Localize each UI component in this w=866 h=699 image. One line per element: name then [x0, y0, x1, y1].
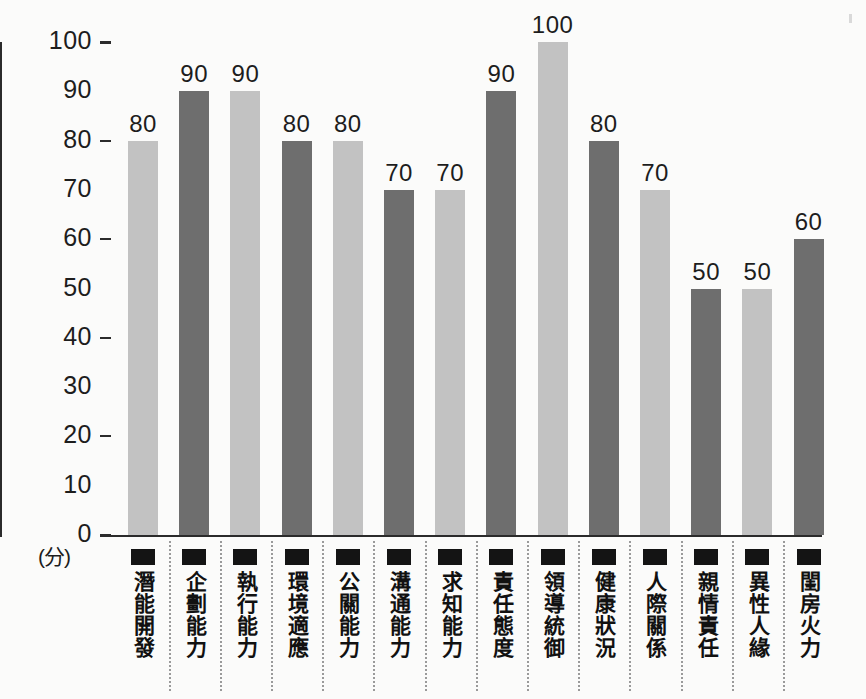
- y-axis-tick-label: 40: [32, 322, 92, 351]
- category-label: 閨房火力: [797, 571, 820, 659]
- category-axis: 潛能開發企劃能力執行能力環境適應公關能力溝通能力求知能力責任態度領導統御健康狀況…: [100, 537, 822, 699]
- y-axis-unit-label: (分): [38, 540, 70, 570]
- bar: [538, 42, 568, 535]
- category-separator: [783, 541, 785, 691]
- bar: [282, 141, 312, 535]
- scan-speck: [849, 14, 852, 23]
- bar-value-label: 60: [783, 208, 835, 236]
- y-axis-tick-label: 90: [32, 75, 92, 104]
- bar-value-label: 90: [168, 60, 220, 88]
- bar: [691, 289, 721, 536]
- category-separator: [271, 541, 273, 691]
- category-separator: [681, 541, 683, 691]
- bar: [230, 91, 260, 535]
- y-axis-tick-label: 60: [32, 223, 92, 252]
- category-column[interactable]: 閨房火力: [783, 537, 834, 699]
- category-separator: [732, 541, 734, 691]
- square-marker-icon: [694, 549, 718, 565]
- category-label: 健康狀況: [592, 571, 615, 659]
- square-marker-icon: [387, 549, 411, 565]
- square-marker-icon: [745, 549, 769, 565]
- category-label: 異性人緣: [746, 571, 769, 659]
- bar: [794, 239, 824, 535]
- bar-series: 80909080807070901008070505060: [100, 42, 822, 535]
- square-marker-icon: [797, 549, 821, 565]
- category-column[interactable]: 異性人緣: [732, 537, 783, 699]
- category-column[interactable]: 健康狀況: [578, 537, 629, 699]
- bar-value-label: 70: [629, 159, 681, 187]
- bar: [742, 289, 772, 536]
- square-marker-icon: [131, 549, 155, 565]
- y-axis-tick-label: 100: [32, 26, 92, 55]
- bar-value-label: 80: [117, 110, 169, 138]
- bar: [640, 190, 670, 535]
- y-axis-line: [0, 42, 2, 537]
- category-column[interactable]: 公關能力: [322, 537, 373, 699]
- category-separator: [578, 541, 580, 691]
- square-marker-icon: [233, 549, 257, 565]
- square-marker-icon: [336, 549, 360, 565]
- square-marker-icon: [592, 549, 616, 565]
- category-column[interactable]: 溝通能力: [373, 537, 424, 699]
- category-label: 公關能力: [336, 571, 359, 659]
- category-label: 人際關係: [643, 571, 666, 659]
- category-separator: [220, 541, 222, 691]
- square-marker-icon: [285, 549, 309, 565]
- category-separator: [527, 541, 529, 691]
- bar-value-label: 70: [373, 159, 425, 187]
- bar-value-label: 50: [680, 258, 732, 286]
- bar: [128, 141, 158, 535]
- category-column[interactable]: 潛能開發: [117, 537, 168, 699]
- category-separator: [476, 541, 478, 691]
- bar: [333, 141, 363, 535]
- y-axis-tick-label: 50: [32, 273, 92, 302]
- bar: [384, 190, 414, 535]
- y-axis-labels: 1009080706050403020100: [26, 0, 92, 699]
- category-column[interactable]: 企劃能力: [169, 537, 220, 699]
- category-label: 親情責任: [695, 571, 718, 659]
- bar-value-label: 100: [527, 11, 579, 39]
- category-label: 領導統御: [541, 571, 564, 659]
- category-label: 溝通能力: [387, 571, 410, 659]
- category-separator: [373, 541, 375, 691]
- chart-page: 1009080706050403020100 (分) 8090908080707…: [0, 0, 866, 699]
- category-label: 責任態度: [490, 571, 513, 659]
- category-column[interactable]: 親情責任: [681, 537, 732, 699]
- category-label: 執行能力: [234, 571, 257, 659]
- bar-value-label: 70: [424, 159, 476, 187]
- category-column[interactable]: 責任態度: [476, 537, 527, 699]
- category-column[interactable]: 領導統御: [527, 537, 578, 699]
- y-axis-tick-label: 20: [32, 420, 92, 449]
- bar: [589, 141, 619, 535]
- category-separator: [169, 541, 171, 691]
- category-separator: [425, 541, 427, 691]
- category-label: 企劃能力: [183, 571, 206, 659]
- bar-value-label: 90: [475, 60, 527, 88]
- bar: [179, 91, 209, 535]
- bar-value-label: 50: [731, 258, 783, 286]
- square-marker-icon: [643, 549, 667, 565]
- category-label: 求知能力: [439, 571, 462, 659]
- category-column[interactable]: 求知能力: [425, 537, 476, 699]
- category-separator: [322, 541, 324, 691]
- category-column[interactable]: 人際關係: [629, 537, 680, 699]
- bar-value-label: 80: [322, 110, 374, 138]
- bar: [435, 190, 465, 535]
- y-axis-tick-label: 70: [32, 174, 92, 203]
- bar-value-label: 80: [271, 110, 323, 138]
- bar-value-label: 80: [578, 110, 630, 138]
- square-marker-icon: [182, 549, 206, 565]
- bar-value-label: 90: [219, 60, 271, 88]
- square-marker-icon: [489, 549, 513, 565]
- category-column[interactable]: 環境適應: [271, 537, 322, 699]
- y-axis-tick-label: 10: [32, 470, 92, 499]
- category-label: 環境適應: [285, 571, 308, 659]
- category-column[interactable]: 執行能力: [220, 537, 271, 699]
- y-axis-tick-label: 80: [32, 125, 92, 154]
- bar: [486, 91, 516, 535]
- square-marker-icon: [541, 549, 565, 565]
- square-marker-icon: [438, 549, 462, 565]
- category-separator: [629, 541, 631, 691]
- y-axis-tick-label: 30: [32, 371, 92, 400]
- category-label: 潛能開發: [131, 571, 154, 659]
